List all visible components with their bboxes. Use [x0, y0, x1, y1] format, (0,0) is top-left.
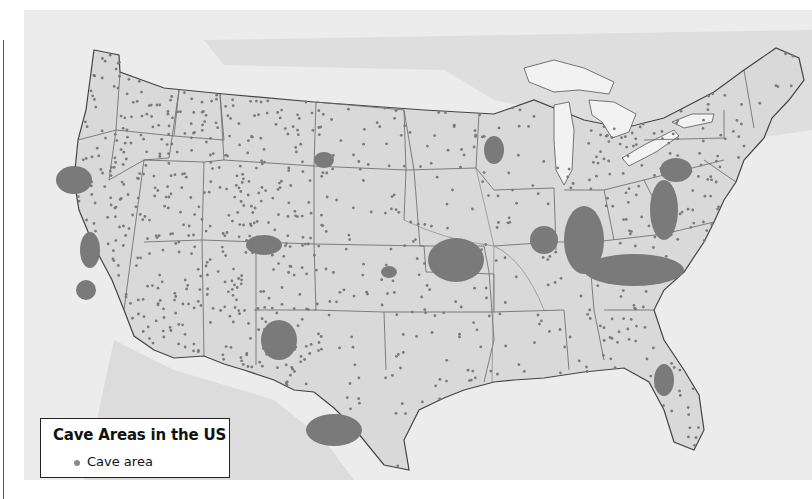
cave-area-dot [603, 158, 606, 161]
cave-area-dot [736, 119, 739, 122]
cave-area-dot [421, 401, 424, 404]
cave-area-dot [294, 214, 297, 217]
cave-area-dot [665, 255, 668, 258]
cave-area-dot [142, 173, 145, 176]
cave-area-dot [689, 426, 692, 429]
cave-area-dot [332, 154, 335, 157]
cave-area-dot [285, 364, 288, 367]
cave-area-dot [634, 308, 637, 311]
cave-area-dot [257, 328, 260, 331]
cave-area-dot [243, 309, 246, 312]
cave-area-dot [454, 300, 457, 303]
cave-area-dot [585, 366, 588, 369]
cave-area-dot [309, 179, 312, 182]
cave-area-dot [235, 184, 238, 187]
cave-area-dot [312, 129, 315, 132]
cave-area-dot [709, 175, 712, 178]
cave-area-dot [474, 129, 477, 132]
cave-area-dot [296, 129, 299, 132]
cave-area-dot [317, 333, 320, 336]
cave-area-dot [636, 262, 639, 265]
cave-area-dot [240, 356, 243, 359]
cave-area-dot [183, 91, 186, 94]
cave-area-dot [92, 238, 95, 241]
cave-area-dot [301, 215, 304, 218]
cave-area-dot [238, 187, 241, 190]
cave-area-dot [693, 444, 696, 447]
cave-area-dot [138, 80, 141, 83]
cave-area-dot [321, 224, 324, 227]
cave-area-dot [465, 254, 468, 257]
cave-area-dot [515, 276, 518, 279]
cave-area-dot [187, 234, 190, 237]
cave-area-dot [402, 351, 405, 354]
cave-area-dot [229, 117, 232, 120]
cave-area-dot [656, 261, 659, 264]
cave-area-dot [388, 165, 391, 168]
cave-area-dot [185, 176, 188, 179]
cave-area-dot [212, 152, 215, 155]
cave-area-dot [692, 222, 695, 225]
cave-area-dot [247, 365, 250, 368]
cave-area-dot [654, 204, 657, 207]
cave-area-dot [777, 85, 780, 88]
cave-area-dot [240, 359, 243, 362]
cave-area-dot [158, 104, 161, 107]
cave-area-dot [246, 152, 249, 155]
cave-area-dot [104, 60, 107, 63]
cave-area-dot [302, 170, 305, 173]
cave-area-dot [463, 154, 466, 157]
cave-area-dot [280, 109, 283, 112]
cave-area-dot [349, 407, 352, 410]
cave-area-dot [123, 116, 126, 119]
cave-area-dot [142, 330, 145, 333]
cave-area-dot [363, 128, 366, 131]
cave-area-dot [201, 129, 204, 132]
cave-area-dot [285, 242, 288, 245]
cave-area-dot [169, 326, 172, 329]
cave-area-dot [383, 107, 386, 110]
cave-area-dot [471, 370, 474, 373]
map-legend: Cave Areas in the US Cave area [40, 418, 230, 478]
cave-area-dot [190, 122, 193, 125]
cave-area-dot [652, 347, 655, 350]
cave-area-dot [146, 237, 149, 240]
cave-area-dot [287, 215, 290, 218]
cave-area-dot [115, 68, 118, 71]
cave-area-dot [622, 289, 625, 292]
cave-area-dot [257, 192, 260, 195]
cave-area-dot [434, 314, 437, 317]
cave-area-dot [86, 125, 89, 128]
cave-area-dot [291, 368, 294, 371]
cave-area-dot [715, 181, 718, 184]
cave-area-dot [724, 137, 727, 140]
legend-item-cave-area: Cave area [87, 454, 153, 469]
cave-area-dot [436, 176, 439, 179]
cave-area-dot [511, 189, 514, 192]
cave-area-dot [580, 295, 583, 298]
cave-area-dot [97, 155, 100, 158]
cave-area-dot [586, 313, 589, 316]
cave-area-dot [325, 172, 328, 175]
cave-area-dot [293, 348, 296, 351]
cave-area-dot [190, 97, 193, 100]
cave-area-dot [404, 412, 407, 415]
cave-area-dot [209, 225, 212, 228]
cave-area-dot [590, 129, 593, 132]
cave-area-dot [471, 208, 474, 211]
cave-area-dot [101, 77, 104, 80]
cave-area-dot [250, 366, 253, 369]
cave-area-dot [609, 336, 612, 339]
cave-area-dot [444, 111, 447, 114]
cave-area-dot [563, 346, 566, 349]
cave-area-dot [426, 284, 429, 287]
cave-area-dot [170, 95, 173, 98]
cave-area-dot [126, 92, 129, 95]
cave-area-dot [296, 113, 299, 116]
cave-area-blob [530, 226, 558, 254]
cave-area-dot [484, 243, 487, 246]
cave-area-dot [628, 257, 631, 260]
cave-area-dot [707, 108, 710, 111]
cave-area-dot [271, 254, 274, 257]
cave-area-dot [332, 271, 335, 274]
